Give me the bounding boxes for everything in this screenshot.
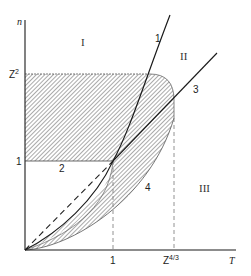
region-III-label: III	[199, 182, 210, 194]
phase-diagram: n T Z2 1 1 Z4/3 I II III 1 2 3 4	[0, 0, 251, 276]
x-tick-1: 1	[110, 255, 116, 266]
curve-2-label: 2	[59, 163, 65, 174]
region-II-label: II	[180, 50, 188, 62]
curve-3-label: 3	[193, 84, 199, 95]
x-tick-z43: Z4/3	[163, 254, 179, 266]
x-axis-label: T	[229, 255, 236, 266]
y-axis-label: n	[17, 16, 22, 27]
y-tick-1: 1	[16, 156, 22, 167]
diagram-canvas: n T Z2 1 1 Z4/3 I II III 1 2 3 4	[0, 0, 251, 276]
curve-4-label: 4	[145, 182, 151, 193]
y-tick-z2: Z2	[9, 68, 19, 80]
region-I-label: I	[81, 36, 85, 48]
curve-1-label: 1	[155, 33, 161, 44]
